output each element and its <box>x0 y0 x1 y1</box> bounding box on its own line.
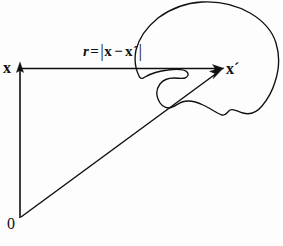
volume-region-outline <box>135 2 278 115</box>
label-origin: 0 <box>7 216 15 232</box>
equation-symbol-equals: = <box>89 43 100 59</box>
equation-symbol-minus: − <box>112 43 125 59</box>
vector-x-prime-shaft <box>21 72 219 218</box>
equation-vector-x-prime: x <box>125 43 133 59</box>
label-field-point-prime-mark: ´ <box>234 60 239 77</box>
label-field-point-base: x <box>226 60 234 77</box>
label-distance-equation: r=|x−x´| <box>83 41 142 59</box>
equation-bar-close: | <box>138 41 142 61</box>
equation-vector-x: x <box>104 43 112 59</box>
label-source-point-x: x <box>3 60 11 76</box>
label-field-point-x-prime: x´ <box>226 61 239 77</box>
vector-diagram-canvas <box>0 0 283 246</box>
equation-bar-open: | <box>100 41 104 61</box>
figure-container: x x´ 0 r=|x−x´| <box>0 0 283 246</box>
